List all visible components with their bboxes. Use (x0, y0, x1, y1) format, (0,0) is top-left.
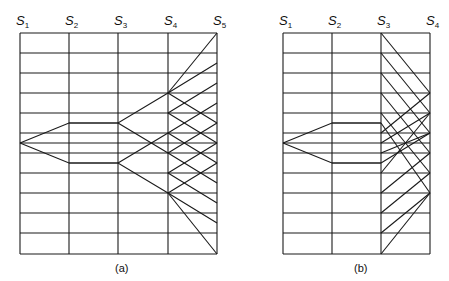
diagram-a: S1S2S3S4S5(a) (16, 13, 227, 274)
path-line (381, 113, 430, 143)
path-line (381, 53, 430, 113)
figure-canvas: S1S2S3S4S5(a) S1S2S3S4(b) (0, 0, 449, 281)
station-label: S4 (164, 13, 178, 30)
path-line (381, 73, 430, 133)
station-label: S2 (65, 13, 79, 30)
station-label: S4 (426, 13, 440, 30)
station-label: S3 (114, 13, 128, 30)
station-label: S1 (279, 13, 293, 30)
path-line (381, 33, 430, 93)
path-line (381, 93, 430, 153)
station-label: S3 (377, 13, 391, 30)
station-label: S1 (16, 13, 30, 30)
path-line (381, 193, 430, 254)
diagram-caption: (b) (354, 262, 367, 274)
station-label: S2 (328, 13, 342, 30)
station-label: S5 (213, 13, 227, 30)
path-line (168, 193, 217, 254)
diagram-b: S1S2S3S4(b) (279, 13, 440, 274)
path-line (168, 33, 217, 93)
diagram-caption: (a) (115, 262, 128, 274)
